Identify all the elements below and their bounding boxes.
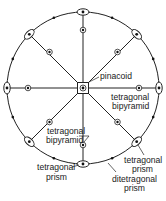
- label-tetragonal-prism-bottom: tetragonal prism: [37, 162, 78, 182]
- label-tetragonal-prism-right: tetragonal prism: [124, 155, 165, 174]
- label-pinacoid: pinacoid: [100, 71, 132, 81]
- label-ditetragonal-prism: ditetragonal prism: [112, 174, 159, 193]
- four-fold-axis-icon: [78, 83, 89, 94]
- label-tetragonal-bipyramid-right: tetragonal bipyramid: [111, 92, 152, 111]
- label-tetragonal-bipyramid-left: tetragonal bipyramid: [46, 126, 88, 145]
- stereogram-diagram: pinacoid tetragonal bipyramid tetragonal…: [0, 0, 166, 201]
